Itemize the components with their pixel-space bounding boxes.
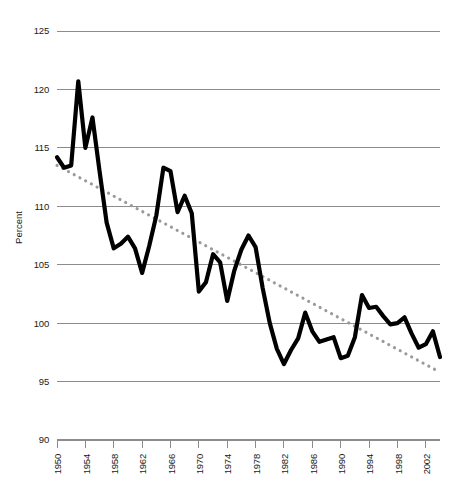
- chart-container: 1251201151101051009590 19501954195819621…: [0, 0, 457, 503]
- y-tick-label-120: 120: [34, 84, 49, 95]
- x-tick-label-1994: 1994: [364, 454, 375, 474]
- x-tick-label-1990: 1990: [336, 454, 347, 474]
- y-tick-label-115: 115: [34, 142, 49, 153]
- y-tick-label-100: 100: [34, 318, 49, 329]
- x-axis-tick-labels: 1950195419581962196619701974197819821986…: [52, 454, 432, 474]
- x-tick-label-1982: 1982: [279, 454, 290, 474]
- y-axis-title: Percent: [13, 211, 24, 244]
- x-tick-label-2002: 2002: [421, 454, 432, 474]
- gridlines-group: [57, 31, 440, 382]
- y-axis-tick-labels: 1251201151101051009590: [34, 25, 49, 445]
- percent-line-series: [57, 81, 440, 364]
- x-tick-label-1974: 1974: [222, 454, 233, 474]
- x-tick-label-1954: 1954: [81, 454, 92, 474]
- x-tick-label-1998: 1998: [393, 454, 404, 474]
- x-tick-label-1966: 1966: [166, 454, 177, 474]
- y-tick-label-110: 110: [34, 201, 49, 212]
- y-tick-label-105: 105: [34, 259, 49, 270]
- x-tick-label-1986: 1986: [308, 454, 319, 474]
- y-tick-label-125: 125: [34, 25, 49, 36]
- y-tick-label-90: 90: [39, 434, 49, 445]
- line-chart: 1251201151101051009590 19501954195819621…: [0, 0, 457, 503]
- y-tick-label-95: 95: [39, 376, 49, 387]
- trend-line-series: [57, 165, 440, 372]
- x-tick-label-1950: 1950: [52, 454, 63, 474]
- x-axis-tick-marks: [57, 440, 426, 448]
- x-tick-label-1978: 1978: [251, 454, 262, 474]
- x-tick-label-1962: 1962: [137, 454, 148, 474]
- x-tick-label-1970: 1970: [194, 454, 205, 474]
- x-tick-label-1958: 1958: [109, 454, 120, 474]
